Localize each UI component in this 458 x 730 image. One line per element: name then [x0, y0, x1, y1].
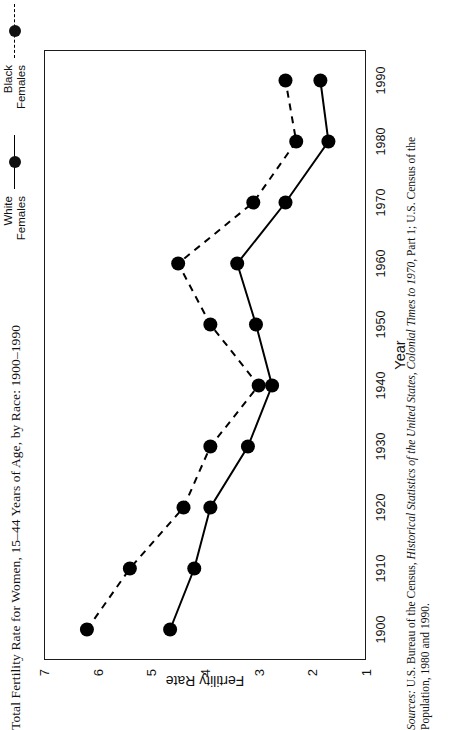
data-point	[249, 318, 263, 332]
data-point	[123, 562, 137, 576]
legend-label-black-females: Black Females	[2, 65, 27, 109]
x-tick-label: 1980	[374, 128, 388, 156]
source-text-1: U.S. Bureau of the Census,	[405, 560, 417, 691]
y-tick-label: 6	[90, 669, 105, 676]
legend-marker-circle	[9, 156, 21, 168]
data-point	[252, 379, 266, 393]
x-tick-label: 1970	[374, 189, 388, 217]
chart-legend: White Females Black Females	[2, 4, 27, 240]
y-tick-label: 2	[305, 669, 320, 676]
data-point	[203, 318, 217, 332]
data-point	[203, 501, 217, 515]
x-tick-label: 1950	[374, 311, 388, 339]
source-note: Sources: U.S. Bureau of the Census, Hist…	[404, 90, 432, 730]
x-tick-label: 1910	[374, 555, 388, 583]
y-tick-label: 5	[144, 669, 159, 676]
x-tick-label: 1930	[374, 433, 388, 461]
source-title-italic: Historical Statistics of the United Stat…	[405, 262, 417, 560]
page-title: Total Fertility Rate for Women, 15–44 Ye…	[8, 325, 24, 730]
plot-area: 1234567 19001910192019301940195019601970…	[44, 50, 366, 660]
figure: Total Fertility Rate for Women, 15–44 Ye…	[0, 0, 458, 730]
x-tick-label: 1940	[374, 372, 388, 400]
legend-label-line1: White	[2, 196, 14, 225]
data-point	[279, 74, 293, 88]
series-plot	[44, 50, 366, 660]
legend-item-black-females: Black Females	[2, 4, 27, 109]
data-point	[265, 379, 279, 393]
source-prefix: Sources:	[405, 690, 417, 730]
data-point	[203, 440, 217, 454]
y-tick-label: 3	[251, 669, 266, 676]
legend-label-line2: Females	[15, 196, 27, 240]
legend-swatch-solid	[7, 135, 23, 189]
x-tick-label: 1960	[374, 250, 388, 278]
data-point	[279, 196, 293, 210]
legend-label-line2: Females	[15, 65, 27, 109]
data-point	[246, 196, 260, 210]
data-point	[230, 257, 244, 271]
data-point	[241, 440, 255, 454]
data-point	[177, 501, 191, 515]
legend-label-white-females: White Females	[2, 196, 27, 240]
data-point	[321, 135, 335, 149]
x-tick-label: 1990	[374, 67, 388, 95]
data-point	[171, 257, 185, 271]
x-tick-label: 1900	[374, 616, 388, 644]
y-tick-label: 1	[359, 669, 374, 676]
y-tick-label: 7	[37, 669, 52, 676]
rotated-figure-container: Total Fertility Rate for Women, 15–44 Ye…	[0, 0, 458, 730]
legend-marker-circle	[9, 25, 21, 37]
series-line-white-females	[170, 81, 328, 630]
data-point	[289, 135, 303, 149]
legend-item-white-females: White Females	[2, 135, 27, 240]
data-point	[187, 562, 201, 576]
legend-swatch-dashed	[7, 4, 23, 58]
data-point	[313, 74, 327, 88]
figure-page: Total Fertility Rate for Women, 15–44 Ye…	[0, 0, 458, 730]
y-axis-label: Fertility Rate	[166, 673, 245, 689]
x-tick-label: 1920	[374, 494, 388, 522]
legend-label-line1: Black	[2, 65, 14, 93]
data-point	[80, 623, 94, 637]
data-point	[163, 623, 177, 637]
